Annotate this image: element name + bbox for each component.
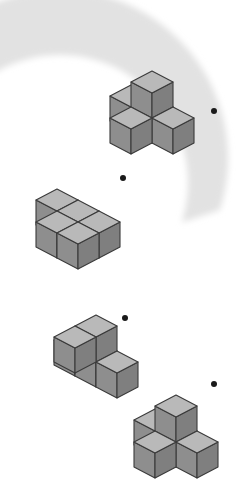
puzzle-canvas: 11 [0,0,243,484]
option-bullet-dot[interactable] [211,381,217,387]
cube-cluster[interactable] [36,189,120,269]
cube-cluster[interactable] [134,395,218,478]
option-bullet-dot[interactable] [122,315,128,321]
cube-cluster[interactable] [54,315,138,398]
option-bullet-dot[interactable] [120,175,126,181]
cube-diagram [0,0,243,484]
option-bullet-dot[interactable] [211,108,217,114]
